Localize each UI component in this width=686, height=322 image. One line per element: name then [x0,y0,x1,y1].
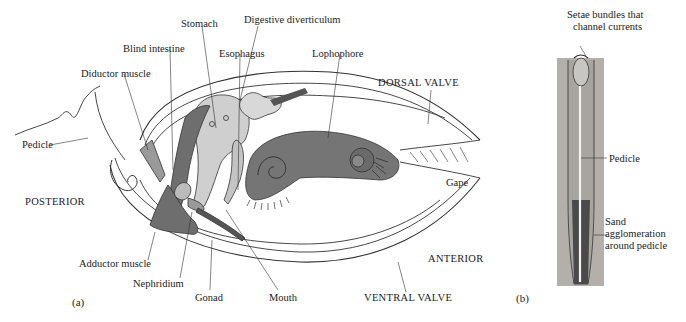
panel-label-b: (b) [516,293,529,304]
label-mouth: Mouth [269,292,297,303]
label-esophagus: Esophagus [219,48,265,59]
label-posterior: POSTERIOR [25,196,85,207]
diverticulum-granules [270,88,308,106]
label-diductor-muscle: Diductor muscle [81,68,151,79]
label-digestive-diverticulum: Digestive diverticulum [244,14,341,25]
hinge-fold [111,160,138,191]
label-nephridium: Nephridium [133,278,184,289]
label-blind-intestine: Blind intestine [123,43,185,54]
label-setae-line1: Setae bundles that [567,9,643,20]
panel-b-drawing [557,55,604,286]
label-dorsal-valve: DORSAL VALVE [378,77,459,88]
label-pedicle-a: Pedicle [22,139,53,150]
diductor-muscle-organ [140,140,165,182]
lophophore-organ [246,131,399,200]
gonad-organ [196,208,245,241]
label-lophophore: Lophophore [312,48,363,59]
label-sand-line2: agglomeration [605,228,666,239]
label-sand-line3: around pedicle [605,240,667,251]
label-anterior: ANTERIOR [428,253,483,264]
label-pedicle-b: Pedicle [609,153,640,164]
label-gape: Gape [446,177,468,188]
label-adductor-muscle: Adductor muscle [79,258,151,269]
panel-label-a: (a) [72,297,84,308]
label-setae-line2: channel currents [573,21,642,32]
digestive-diverticulum-organ [240,93,282,120]
gape-hatching [410,147,468,162]
label-ventral-valve: VENTRAL VALVE [364,292,452,303]
pedicle-body [95,92,125,160]
substrate-surface [15,86,100,135]
label-stomach: Stomach [181,18,218,29]
shell-in-burrow [573,58,589,86]
gape-upper [400,140,480,150]
label-sand-line1: Sand [605,216,626,227]
organs [140,88,399,241]
gape-lower [400,162,480,178]
label-gonad: Gonad [195,292,223,303]
